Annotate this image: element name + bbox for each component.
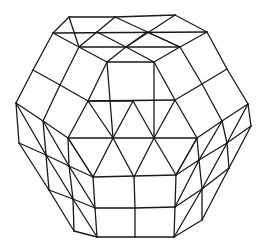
edge [43, 121, 68, 138]
edge [180, 47, 202, 84]
edge [202, 168, 229, 189]
edge [147, 32, 180, 47]
edge [115, 15, 175, 17]
edge [68, 138, 69, 166]
edge [97, 17, 115, 32]
edge [60, 47, 79, 85]
edge [49, 190, 74, 231]
edge [79, 32, 97, 47]
edge [174, 207, 175, 237]
edge [199, 160, 202, 189]
edge [154, 100, 175, 138]
edge [16, 103, 46, 155]
edge [202, 168, 229, 220]
edge [93, 138, 113, 177]
edge [107, 47, 126, 62]
edge [227, 143, 229, 168]
edge [154, 138, 176, 175]
edge [135, 207, 175, 208]
edge [97, 32, 126, 47]
edge [175, 175, 176, 207]
edge [199, 121, 222, 160]
edge [180, 32, 207, 47]
edge [16, 103, 43, 121]
edge [88, 62, 107, 101]
edge [134, 177, 135, 208]
edge [95, 208, 97, 237]
edge [154, 47, 180, 62]
edge [134, 138, 154, 177]
edge [175, 15, 207, 32]
edge [33, 33, 53, 70]
edge [79, 47, 107, 62]
edge [73, 199, 74, 231]
edge [202, 84, 222, 121]
polyhedron-edges [16, 15, 251, 237]
edge [227, 69, 248, 104]
edge [107, 62, 113, 138]
edge [113, 101, 133, 138]
edge [88, 101, 113, 138]
edge [49, 190, 73, 199]
edge [16, 103, 19, 143]
edge [175, 84, 202, 100]
edge [174, 220, 202, 237]
edge [175, 100, 197, 138]
edge [202, 69, 227, 84]
edge [33, 70, 60, 85]
edge [197, 121, 222, 138]
edge [60, 85, 88, 101]
polyhedron-diagram [0, 0, 265, 247]
edge [197, 138, 199, 160]
edge [68, 101, 88, 138]
edge [16, 70, 33, 103]
edge [133, 101, 154, 138]
edge [222, 121, 227, 143]
edge [43, 85, 60, 121]
edge [113, 138, 134, 177]
edge [93, 177, 95, 208]
edge [126, 47, 154, 62]
edge [227, 126, 251, 143]
edge [154, 62, 175, 100]
edge [207, 32, 227, 69]
edge [53, 32, 207, 33]
edge [248, 104, 251, 126]
edge [53, 17, 69, 33]
edge [174, 189, 202, 237]
edge [126, 32, 147, 47]
